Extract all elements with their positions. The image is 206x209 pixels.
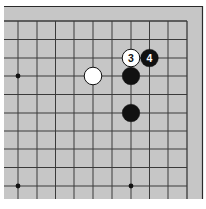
white-stone-3: 3 — [122, 49, 140, 67]
move-number: 3 — [128, 52, 134, 64]
star-point — [16, 74, 21, 79]
go-board-diagram: 34 — [0, 0, 206, 209]
star-point — [129, 184, 134, 189]
move-number: 4 — [147, 52, 153, 64]
board-surface — [4, 6, 202, 199]
black-stone — [122, 67, 140, 85]
black-stone — [122, 104, 140, 122]
white-stone — [84, 67, 102, 85]
star-point — [16, 184, 21, 189]
black-stone-4: 4 — [141, 49, 159, 67]
